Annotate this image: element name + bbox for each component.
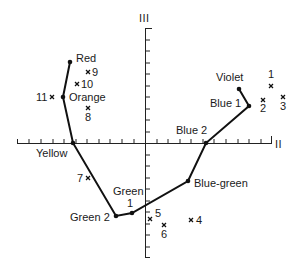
label-green-2: Green 2 bbox=[70, 211, 110, 223]
horizontal-axis bbox=[17, 136, 272, 144]
horizontal-axis-label: II bbox=[275, 138, 282, 150]
vertical-axis-label: III bbox=[139, 12, 150, 24]
cross-label-1: 1 bbox=[268, 68, 274, 80]
cross-marker-11 bbox=[50, 95, 54, 99]
cross-marker-4 bbox=[189, 218, 193, 222]
label-blue-1: Blue 1 bbox=[210, 97, 241, 109]
cross-label-5: 5 bbox=[155, 207, 161, 219]
cross-label-7: 7 bbox=[77, 172, 83, 184]
point-blue-1 bbox=[247, 104, 252, 109]
point-green-1 bbox=[130, 211, 135, 216]
label-violet: Violet bbox=[216, 71, 243, 83]
label-blue-2: Blue 2 bbox=[176, 124, 207, 136]
point-green-2 bbox=[114, 214, 119, 219]
cross-label-8: 8 bbox=[85, 111, 91, 123]
point-violet bbox=[237, 87, 242, 92]
cross-label-9: 9 bbox=[92, 66, 98, 78]
point-orange bbox=[61, 95, 66, 100]
cross-marker-8 bbox=[86, 106, 90, 110]
point-yellow bbox=[71, 141, 76, 146]
label-blue-green: Blue-green bbox=[194, 177, 248, 189]
point-blue-green bbox=[186, 179, 191, 184]
cross-marker-7 bbox=[86, 176, 90, 180]
cross-marker-3 bbox=[281, 95, 285, 99]
cross-marker-1 bbox=[269, 84, 273, 88]
cross-label-11: 11 bbox=[36, 91, 47, 103]
color-space-diagram: II III Red Or bbox=[0, 0, 301, 274]
cross-marker-5 bbox=[148, 217, 152, 221]
label-yellow: Yellow bbox=[36, 147, 67, 159]
label-orange: Orange bbox=[69, 91, 106, 103]
cross-marker-9 bbox=[86, 70, 90, 74]
point-red bbox=[68, 60, 73, 65]
label-green-1: 1 bbox=[127, 197, 133, 209]
label-red: Red bbox=[76, 52, 96, 64]
cross-marker-10 bbox=[75, 82, 79, 86]
cross-label-2: 2 bbox=[260, 102, 266, 114]
cross-label-3: 3 bbox=[280, 100, 286, 112]
cross-marker-6 bbox=[162, 223, 166, 227]
cross-label-4: 4 bbox=[196, 214, 202, 226]
label-green: Green bbox=[113, 185, 144, 197]
point-blue-2 bbox=[204, 141, 209, 146]
cross-label-10: 10 bbox=[81, 78, 93, 90]
cross-label-6: 6 bbox=[161, 228, 167, 240]
